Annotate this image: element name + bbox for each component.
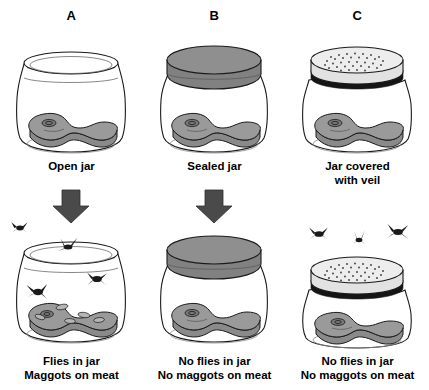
result-caption-a-line1: Flies in jar	[0, 355, 143, 369]
fly-icon	[388, 224, 409, 239]
down-arrow-icon-a	[0, 190, 143, 224]
result-caption-a-line2: Maggots on meat	[0, 369, 143, 383]
veil-cover-c-result	[311, 257, 403, 299]
open-jar-with-flies-drawing	[0, 222, 143, 354]
veil-cover-c	[311, 47, 403, 89]
open-jar-drawing	[0, 26, 143, 156]
result-caption-c-line1: No flies in jar	[286, 355, 429, 369]
result-caption-c-line2: No maggots on meat	[286, 369, 429, 383]
down-arrow-icon-b	[143, 190, 286, 224]
arrow-slot-c	[286, 190, 429, 224]
result-illustration-c	[286, 222, 429, 354]
veiled-jar-drawing	[286, 26, 429, 156]
experiment-column-b: B Sealed jar	[143, 0, 286, 390]
panel-letter-c: C	[286, 8, 429, 23]
arrow-slot-a	[0, 190, 143, 224]
setup-caption-a-line: Open jar	[0, 160, 143, 174]
fly-icon	[11, 222, 27, 232]
sealed-jar-no-flies-drawing	[143, 222, 286, 354]
setup-caption-b-line: Sealed jar	[143, 160, 286, 174]
setup-caption-c: Jar covered with veil	[286, 160, 429, 187]
panel-letter-b: B	[143, 8, 286, 23]
result-caption-b: No flies in jar No maggots on meat	[143, 355, 286, 382]
result-caption-c: No flies in jar No maggots on meat	[286, 355, 429, 382]
panel-letter-a: A	[0, 8, 143, 23]
sealed-lid-b	[167, 46, 261, 89]
setup-illustration-b	[143, 26, 286, 156]
setup-caption-b: Sealed jar	[143, 160, 286, 174]
result-caption-b-line2: No maggots on meat	[143, 369, 286, 383]
fly-icon	[309, 227, 328, 239]
sealed-jar-drawing	[143, 26, 286, 156]
setup-caption-a: Open jar	[0, 160, 143, 174]
setup-illustration-c	[286, 26, 429, 156]
result-caption-a: Flies in jar Maggots on meat	[0, 355, 143, 382]
setup-illustration-a	[0, 26, 143, 156]
experiment-column-c: C	[286, 0, 429, 390]
veiled-jar-flies-outside-drawing	[286, 222, 429, 354]
result-illustration-a	[0, 222, 143, 354]
sealed-lid-b-result	[167, 236, 261, 279]
result-caption-b-line1: No flies in jar	[143, 355, 286, 369]
arrow-slot-b	[143, 190, 286, 224]
fly-icon	[352, 230, 366, 245]
setup-caption-c-line2: with veil	[286, 174, 429, 188]
setup-caption-c-line1: Jar covered	[286, 160, 429, 174]
redi-experiment-figure: A	[0, 0, 429, 390]
experiment-column-a: A	[0, 0, 143, 390]
result-illustration-b	[143, 222, 286, 354]
